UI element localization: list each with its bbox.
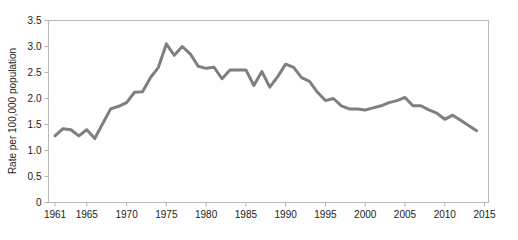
x-tick-label: 2010 <box>434 209 457 220</box>
y-tick-label: 2.5 <box>28 67 42 78</box>
x-tick-label: 2005 <box>394 209 417 220</box>
caption-strip <box>0 234 518 240</box>
x-tick-label: 1961 <box>44 209 67 220</box>
y-tick-label: 0 <box>36 197 42 208</box>
y-tick-label: 0.5 <box>28 171 42 182</box>
x-tick-label: 1995 <box>314 209 337 220</box>
line-chart: 00.51.01.52.02.53.03.5 19611965197019751… <box>0 0 518 240</box>
x-tick-label: 1985 <box>235 209 258 220</box>
x-tick-label: 2015 <box>473 209 496 220</box>
plot-frame <box>49 21 489 203</box>
y-tick-label: 3.5 <box>28 15 42 26</box>
x-tick-label: 1975 <box>155 209 178 220</box>
y-axis: 00.51.01.52.02.53.03.5 <box>28 15 49 208</box>
y-tick-label: 3.0 <box>28 41 42 52</box>
chart-figure: 00.51.01.52.02.53.03.5 19611965197019751… <box>0 0 518 240</box>
y-tick-label: 1.0 <box>28 145 42 156</box>
x-tick-label: 2000 <box>354 209 377 220</box>
y-axis-title: Rate per 100,000 population <box>7 48 18 174</box>
x-axis: 1961196519701975198019851990199520002005… <box>44 203 496 220</box>
x-tick-label: 1970 <box>115 209 138 220</box>
y-tick-label: 1.5 <box>28 119 42 130</box>
x-tick-label: 1990 <box>275 209 298 220</box>
x-tick-label: 1980 <box>195 209 218 220</box>
y-tick-label: 2.0 <box>28 93 42 104</box>
plot-area <box>49 21 489 203</box>
x-tick-label: 1965 <box>76 209 99 220</box>
